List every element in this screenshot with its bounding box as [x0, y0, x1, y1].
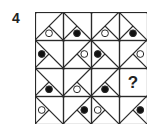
black-circle-icon	[81, 107, 88, 114]
white-circle-icon	[38, 107, 45, 114]
grid-junction-dot	[90, 39, 92, 41]
grid-junction-dot	[118, 67, 120, 69]
grid-junction-dot	[90, 95, 92, 97]
grid-junction-dot	[118, 39, 120, 41]
puzzle-grid: ?	[35, 12, 147, 124]
grid-junction-dot	[62, 39, 64, 41]
black-circle-icon	[102, 86, 109, 93]
white-circle-icon	[81, 51, 88, 58]
black-circle-icon	[130, 30, 137, 37]
grid-junction-dot	[146, 12, 147, 14]
white-circle-icon	[74, 86, 81, 93]
grid-junction-dot	[62, 95, 64, 97]
black-circle-icon	[38, 51, 45, 58]
missing-cell-question-mark[interactable]: ?	[128, 73, 138, 92]
white-circle-icon	[137, 51, 144, 58]
grid-junction-dot	[35, 12, 37, 14]
grid-junction-dot	[118, 95, 120, 97]
white-circle-icon	[102, 30, 109, 37]
white-circle-icon	[94, 107, 101, 114]
black-circle-icon	[94, 51, 101, 58]
grid-junction-dot	[35, 123, 37, 124]
grid-junction-dot	[90, 67, 92, 69]
black-circle-icon	[74, 30, 81, 37]
black-circle-icon	[46, 86, 53, 93]
puzzle-grid-canvas: ?	[35, 12, 147, 124]
grid-junction-dot	[62, 67, 64, 69]
grid-junction-dot	[90, 12, 92, 14]
question-number: 4	[12, 10, 20, 26]
white-circle-icon	[46, 30, 53, 37]
black-circle-icon	[137, 107, 144, 114]
